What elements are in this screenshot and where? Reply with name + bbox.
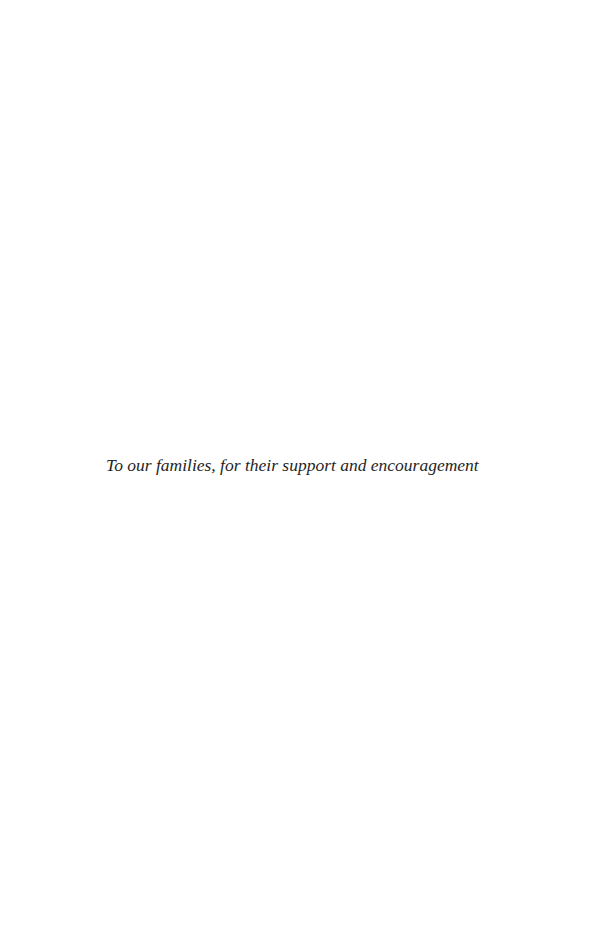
dedication-text: To our families, for their support and e… (106, 455, 479, 475)
dedication-page: To our families, for their support and e… (0, 0, 602, 952)
